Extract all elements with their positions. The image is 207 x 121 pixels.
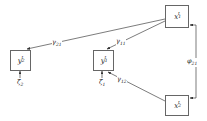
label-gamma11: γ11 xyxy=(116,38,126,47)
label-zeta2: ζ2 xyxy=(17,79,23,88)
edge-gamma21 xyxy=(27,19,165,49)
label-gamma12: γ12 xyxy=(117,76,127,85)
node-y1-sup: t xyxy=(105,55,107,60)
label-phi21: φ21 xyxy=(187,58,197,67)
path-diagram: x1t x2t y1t y2t ζ2 ζ1 γ21 γ11 γ12 φ21 xyxy=(0,0,207,121)
node-y2-sup: t xyxy=(22,55,24,60)
node-x1-sup: t xyxy=(178,11,180,16)
label-zeta1: ζ1 xyxy=(99,79,105,88)
node-x1: x1t xyxy=(165,5,189,28)
node-y1: y1t xyxy=(93,50,114,71)
node-x2-sup: t xyxy=(178,100,180,105)
node-y2: y2t xyxy=(10,50,31,71)
node-x2: x2t xyxy=(165,95,189,116)
label-gamma21: γ21 xyxy=(52,39,62,48)
